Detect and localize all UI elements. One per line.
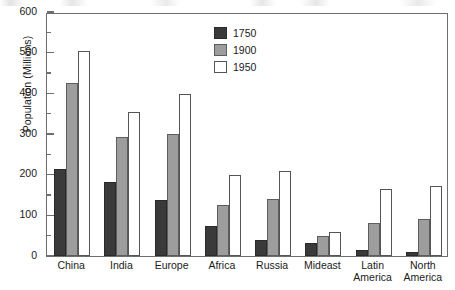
legend: 175019001950 (214, 25, 292, 76)
y-tick-mark (47, 11, 54, 12)
y-tick-label: 100 (0, 208, 37, 220)
bar (255, 240, 267, 256)
legend-item: 1900 (214, 42, 292, 57)
bar (368, 223, 380, 256)
y-tick-label: 200 (0, 167, 37, 179)
bar (317, 236, 329, 256)
y-tick-label: 400 (0, 86, 37, 98)
bar-group (406, 14, 442, 256)
population-bar-chart: Population (Millions) 010020030040050060… (0, 0, 455, 290)
bar (380, 189, 392, 256)
y-tick-label: 500 (0, 45, 37, 57)
legend-swatch (214, 61, 227, 73)
bar (356, 250, 368, 256)
bar (66, 83, 78, 256)
bar (418, 219, 430, 256)
bar (54, 169, 66, 256)
bar (305, 243, 317, 256)
bar (116, 137, 128, 256)
bar-group (356, 14, 392, 256)
bar (155, 200, 167, 256)
bar (78, 51, 90, 256)
bar (279, 171, 291, 256)
y-tick-label: 0 (0, 249, 37, 261)
bar (406, 252, 418, 256)
bar-group (305, 14, 341, 256)
x-axis-label: North America (392, 260, 454, 283)
y-tick-label: 300 (0, 127, 37, 139)
bar (205, 226, 217, 257)
bar (217, 205, 229, 256)
bar (104, 182, 116, 256)
scan-artifact (0, 0, 455, 6)
legend-item: 1750 (214, 25, 292, 40)
legend-label: 1950 (233, 61, 256, 73)
bar-group (54, 14, 90, 256)
legend-label: 1900 (233, 44, 256, 56)
bar (179, 94, 191, 256)
bar (430, 186, 442, 256)
bar (167, 134, 179, 256)
bar-group (104, 14, 140, 256)
legend-swatch (214, 44, 227, 56)
legend-item: 1950 (214, 59, 292, 74)
bar (267, 199, 279, 256)
bar (128, 112, 140, 256)
legend-swatch (214, 27, 227, 39)
bar (329, 232, 341, 256)
y-tick-label: 600 (0, 5, 37, 17)
bar-group (155, 14, 191, 256)
bar (229, 175, 241, 256)
legend-label: 1750 (233, 27, 256, 39)
